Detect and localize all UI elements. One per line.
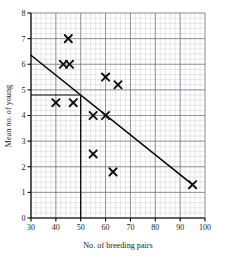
scatter-plot-figure: 30405060708090100 012345678 No. of breed… (0, 0, 229, 263)
x-tick-label: 30 (27, 223, 35, 232)
y-tick-label: 4 (22, 111, 26, 120)
x-tick-label: 80 (151, 223, 159, 232)
x-tick-label: 100 (199, 223, 211, 232)
x-tick-label: 70 (126, 223, 134, 232)
chart-svg: 30405060708090100 012345678 No. of breed… (0, 0, 229, 263)
y-tick-label: 0 (22, 214, 26, 223)
y-tick-label: 1 (22, 188, 26, 197)
y-tick-label: 6 (22, 60, 26, 69)
y-axis-title: Mean no. of young (4, 85, 13, 147)
y-tick-label: 3 (22, 137, 26, 146)
y-tick-label: 2 (22, 163, 26, 172)
x-tick-label: 90 (176, 223, 184, 232)
y-tick-label: 7 (22, 35, 26, 44)
x-tick-label: 40 (52, 223, 60, 232)
x-tick-label: 60 (102, 223, 110, 232)
x-axis-title: No. of breeding pairs (83, 241, 153, 250)
y-tick-label: 5 (22, 86, 26, 95)
x-tick-label: 50 (77, 223, 85, 232)
y-tick-label: 8 (22, 9, 26, 18)
